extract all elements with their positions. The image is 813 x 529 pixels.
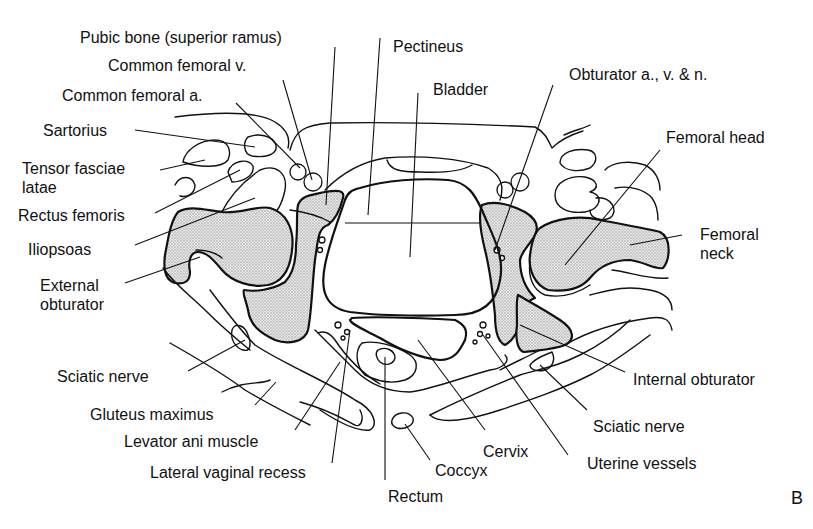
label-femoral-neck: Femoral neck	[700, 225, 780, 263]
label-obturator-avn: Obturator a., v. & n.	[569, 65, 707, 84]
label-external-obturator: External obturator	[40, 276, 130, 314]
label-levator-ani: Levator ani muscle	[124, 432, 258, 451]
label-cervix: Cervix	[483, 442, 528, 461]
label-coccyx: Coccyx	[435, 461, 487, 480]
label-common-femoral-vein: Common femoral v.	[108, 56, 246, 75]
label-rectum: Rectum	[388, 487, 443, 506]
label-sciatic-nerve-right: Sciatic nerve	[593, 417, 685, 436]
label-rectus-femoris: Rectus femoris	[18, 206, 125, 225]
right-internal-obturator-region	[516, 295, 572, 352]
rectum-outline	[376, 348, 395, 364]
pelvic-organs	[315, 157, 507, 392]
label-lateral-vaginal-recess: Lateral vaginal recess	[150, 463, 306, 482]
label-tensor-fasciae-latae: Tensor fasciae latae	[22, 159, 152, 197]
bladder-outline	[323, 179, 501, 315]
label-femoral-head: Femoral head	[666, 128, 765, 147]
label-common-femoral-artery: Common femoral a.	[62, 86, 203, 105]
label-uterine-vessels: Uterine vessels	[587, 454, 696, 473]
right-sciatic-nerve-outline	[530, 352, 554, 371]
label-gluteus-maximus: Gluteus maximus	[90, 405, 214, 424]
pelvis-cross-section-diagram: Pubic bone (superior ramus) Common femor…	[0, 0, 813, 529]
panel-letter: B	[791, 489, 803, 508]
left-femoral-head-bone	[164, 207, 292, 285]
label-pubic-bone: Pubic bone (superior ramus)	[80, 28, 282, 47]
label-sciatic-nerve-left: Sciatic nerve	[57, 367, 149, 386]
femoral-vessels-left	[290, 164, 322, 191]
label-pectineus: Pectineus	[393, 37, 463, 56]
tensor-fasciae-latae-outline	[183, 140, 229, 166]
label-bladder: Bladder	[433, 80, 488, 99]
label-sartorius: Sartorius	[43, 121, 107, 140]
common-femoral-vein	[304, 173, 322, 191]
rectus-femoris-outline	[228, 161, 253, 182]
coccyx-outline	[392, 413, 414, 429]
label-internal-obturator: Internal obturator	[633, 370, 755, 389]
right-femoral-head-bone	[530, 218, 669, 291]
label-iliopsoas: Iliopsoas	[28, 240, 91, 259]
